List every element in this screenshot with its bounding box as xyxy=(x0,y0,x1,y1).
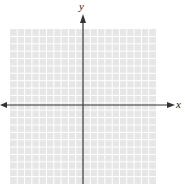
x-axis-label: x xyxy=(176,99,181,110)
x-axis-right-arrow-icon xyxy=(167,102,175,108)
x-axis-left-arrow-icon xyxy=(0,102,7,108)
coordinate-plane xyxy=(0,0,185,184)
y-axis-label: y xyxy=(79,1,84,12)
y-axis-up-arrow-icon xyxy=(80,14,86,23)
